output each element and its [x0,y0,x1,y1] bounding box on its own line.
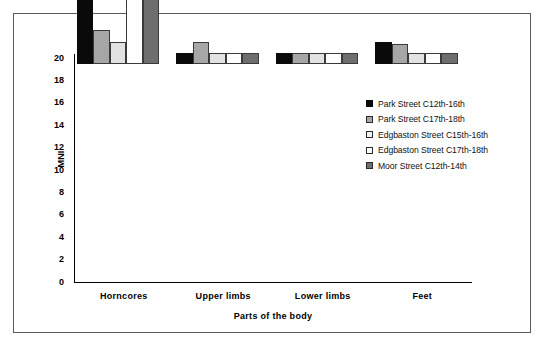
legend-swatch-icon [366,131,373,138]
figure-frame: MNI 20181614121086420 HorncoresUpper lim… [13,13,531,333]
legend-label: Moor Street C12th-14th [378,161,467,171]
bar[interactable] [242,53,259,64]
chart-legend: Park Street C12th-16thPark Street C17th-… [366,96,541,174]
bar[interactable] [392,44,409,64]
bar[interactable] [276,53,293,64]
bar[interactable] [309,53,326,64]
legend-label: Park Street C17th-18th [378,114,465,124]
y-axis-tick-label: 12 [42,143,64,152]
legend-swatch-icon [366,162,373,169]
x-axis-category-label: Horncores [74,291,174,301]
y-axis-tick-label: 14 [42,121,64,130]
x-axis-category-label: Lower limbs [273,291,373,301]
legend-swatch-icon [366,116,373,123]
bar[interactable] [325,53,342,64]
legend-label: Park Street C12th-16th [378,99,465,109]
y-axis-title: MNI [56,129,66,189]
y-axis-tick-label: 18 [42,76,64,85]
x-axis-line [74,282,472,283]
legend-label: Edgbaston Street C17th-18th [378,145,488,155]
y-axis-tick-label: 20 [42,54,64,63]
y-axis-tick-label: 8 [42,188,64,197]
y-axis-tick-label: 16 [42,98,64,107]
bar[interactable] [176,53,193,64]
y-axis-line [74,54,75,283]
y-axis-tick-label: 0 [42,278,64,287]
bar[interactable] [292,53,309,64]
bar[interactable] [193,42,210,64]
y-axis-tick-label: 10 [42,166,64,175]
bar[interactable] [441,53,458,64]
y-axis-tick-label: 2 [42,255,64,264]
bar[interactable] [77,0,94,64]
x-axis-category-label: Feet [373,291,473,301]
bar[interactable] [425,53,442,64]
bar[interactable] [342,53,359,64]
y-axis-tick-label: 6 [42,210,64,219]
legend-item[interactable]: Park Street C17th-18th [366,112,541,128]
legend-swatch-icon [366,100,373,107]
bar[interactable] [226,53,243,64]
bar[interactable] [375,42,392,64]
bar[interactable] [110,42,127,64]
x-axis-category-label: Upper limbs [174,291,274,301]
bar[interactable] [143,0,160,64]
legend-label: Edgbaston Street C15th-16th [378,130,488,140]
legend-item[interactable]: Edgbaston Street C15th-16th [366,127,541,143]
bar[interactable] [209,53,226,64]
legend-item[interactable]: Park Street C12th-16th [366,96,541,112]
bar[interactable] [126,0,143,64]
legend-item[interactable]: Edgbaston Street C17th-18th [366,143,541,159]
legend-item[interactable]: Moor Street C12th-14th [366,158,541,174]
bar[interactable] [408,53,425,64]
x-axis-title: Parts of the body [74,311,472,321]
legend-swatch-icon [366,147,373,154]
bar[interactable] [93,30,110,64]
y-axis-tick-label: 4 [42,233,64,242]
